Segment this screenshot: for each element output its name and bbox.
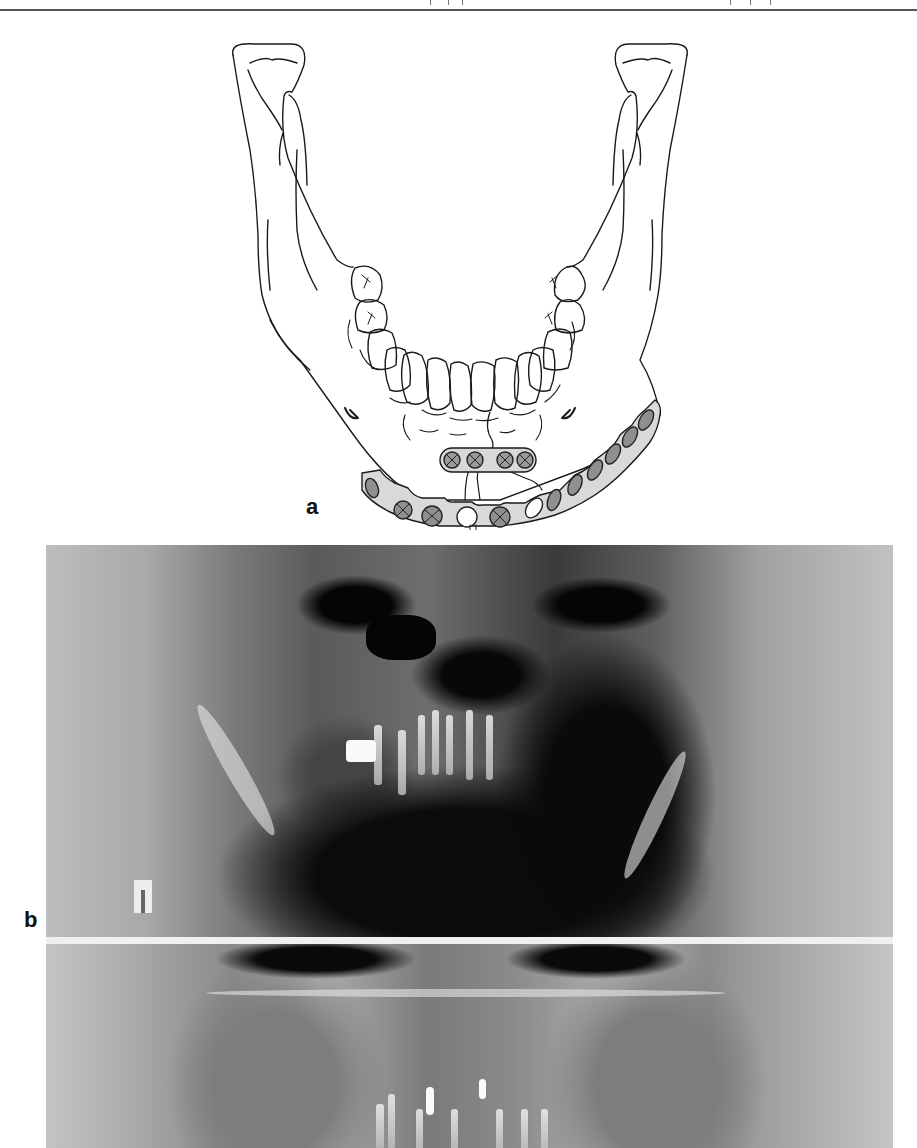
panoramic-xray-postop: [46, 944, 893, 1148]
left-mental-foramen: [345, 408, 358, 418]
image-separator: [46, 937, 893, 944]
lower-dentition: [352, 266, 586, 411]
panel-label-a: a: [306, 494, 318, 520]
radiograph-ruler-marker: [134, 880, 152, 913]
right-mandible-border: [640, 55, 687, 415]
panel-label-b: b: [24, 907, 37, 933]
mandible-illustration: [200, 30, 720, 530]
header-ticks: [0, 0, 917, 8]
upper-miniplate: [440, 448, 536, 472]
page-header-rule: [0, 9, 917, 11]
right-mental-foramen: [562, 408, 575, 418]
left-mandible-border: [233, 55, 660, 500]
panoramic-xray-preop: [46, 545, 893, 937]
